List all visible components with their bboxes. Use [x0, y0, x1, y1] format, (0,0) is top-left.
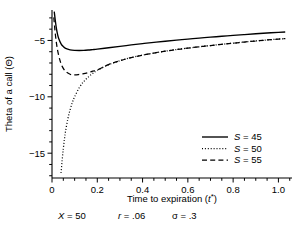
footer-param: r = .06	[118, 210, 145, 221]
y-axis-ticks	[48, 18, 53, 176]
series-curve-s-55	[54, 17, 285, 75]
x-tick-label: 1.0	[272, 184, 285, 195]
legend-label[interactable]: S = 50	[234, 143, 262, 154]
x-axis-title: Time to expiration (t*)	[127, 192, 217, 204]
x-axis-ticks	[52, 178, 290, 183]
figure-container: −5−10−15 00.20.40.60.81.0 Theta of a cal…	[0, 0, 299, 233]
x-axis-title-prefix: Time to expiration (	[127, 193, 209, 204]
legend-value: = 50	[240, 143, 261, 154]
footer-parameters: X = 50r = .06σ = .3	[57, 210, 197, 221]
x-axis-title-suffix: )	[214, 193, 217, 204]
x-tick-label: 0.2	[91, 184, 104, 195]
legend[interactable]: S = 45S = 50S = 55	[202, 131, 262, 165]
legend-label[interactable]: S = 55	[234, 154, 262, 165]
footer-param-value: = .06	[121, 210, 145, 221]
legend-value: = 55	[240, 154, 261, 165]
x-tick-label: 0.8	[227, 184, 240, 195]
y-tick-label: −5	[34, 35, 45, 46]
legend-value: = 45	[240, 131, 261, 142]
y-axis-tick-labels: −5−10−15	[29, 35, 45, 159]
footer-param-value: = 50	[64, 210, 85, 221]
theta-of-call-chart: −5−10−15 00.20.40.60.81.0 Theta of a cal…	[0, 0, 299, 233]
y-tick-label: −10	[29, 91, 45, 102]
series-curve-s-45	[54, 12, 285, 51]
footer-param-value: = .3	[178, 210, 197, 221]
footer-param: σ = .3	[172, 210, 197, 221]
y-tick-label: −15	[29, 148, 45, 159]
x-tick-label: 0	[49, 184, 54, 195]
y-axis-title: Theta of a call (Θ)	[3, 56, 14, 132]
footer-param: X = 50	[57, 210, 86, 221]
legend-label[interactable]: S = 45	[234, 131, 262, 142]
